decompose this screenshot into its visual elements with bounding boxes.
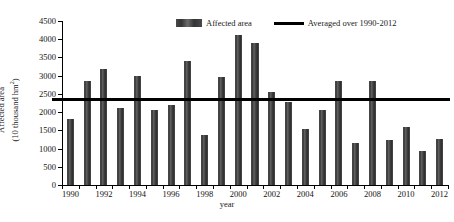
y-tick-label: 0 xyxy=(52,181,56,190)
x-tick-label: 1992 xyxy=(95,190,112,199)
x-tick xyxy=(213,185,214,189)
bar xyxy=(369,81,376,185)
y-tick xyxy=(58,94,62,95)
y-axis-title-line2: (10 thousand hm2) xyxy=(7,50,21,170)
x-tick xyxy=(448,185,449,189)
x-tick xyxy=(112,185,113,189)
bar xyxy=(67,119,74,185)
x-tick xyxy=(347,185,348,189)
x-axis-title: year xyxy=(0,199,454,209)
y-tick xyxy=(58,149,62,150)
x-tick xyxy=(414,185,415,189)
y-tick-label: 3500 xyxy=(39,53,56,62)
bar xyxy=(218,77,225,185)
x-tick-label: 1998 xyxy=(196,190,213,199)
y-tick xyxy=(58,39,62,40)
bar xyxy=(335,81,342,185)
chart-container: Affected area Averaged over 1990-2012 Af… xyxy=(0,0,454,222)
x-tick xyxy=(314,185,315,189)
x-tick-label: 2010 xyxy=(398,190,415,199)
y-axis-line xyxy=(62,21,63,185)
bar xyxy=(100,69,107,185)
x-tick-label: 2000 xyxy=(230,190,247,199)
bar xyxy=(84,81,91,185)
bar xyxy=(235,35,242,185)
y-tick xyxy=(58,130,62,131)
y-axis-title-line1: Affected area xyxy=(0,87,6,133)
bar xyxy=(319,110,326,185)
x-tick-label: 2008 xyxy=(364,190,381,199)
bar xyxy=(117,108,124,185)
x-tick xyxy=(179,185,180,189)
x-tick-label: 2002 xyxy=(263,190,280,199)
x-tick-label: 1996 xyxy=(163,190,180,199)
bar xyxy=(436,139,443,185)
x-tick xyxy=(146,185,147,189)
x-tick-label: 2006 xyxy=(330,190,347,199)
y-tick-label: 500 xyxy=(43,163,56,172)
average-reference-line xyxy=(52,98,450,100)
x-tick xyxy=(280,185,281,189)
x-tick xyxy=(79,185,80,189)
y-tick-label: 3000 xyxy=(39,71,56,80)
bar xyxy=(201,135,208,185)
bar xyxy=(168,105,175,185)
bar xyxy=(285,102,292,185)
bar xyxy=(151,110,158,185)
y-tick-label: 4500 xyxy=(39,17,56,26)
y-tick xyxy=(58,76,62,77)
y-tick xyxy=(58,57,62,58)
x-tick xyxy=(247,185,248,189)
y-tick xyxy=(58,167,62,168)
x-tick-label: 2004 xyxy=(297,190,314,199)
bar xyxy=(386,140,393,185)
y-tick-label: 2500 xyxy=(39,90,56,99)
bar xyxy=(184,61,191,185)
plot-area: 050010001500200025003000350040004500 199… xyxy=(62,21,448,185)
bar xyxy=(419,151,426,185)
x-tick-label: 1990 xyxy=(62,190,79,199)
bar xyxy=(403,127,410,185)
y-axis-title: Affected area (10 thousand hm2) xyxy=(0,50,21,170)
y-tick-label: 1000 xyxy=(39,144,56,153)
bar xyxy=(134,76,141,185)
bar xyxy=(302,129,309,185)
y-tick-label: 4000 xyxy=(39,35,56,44)
x-axis-line xyxy=(62,185,448,186)
x-tick-label: 1994 xyxy=(129,190,146,199)
y-tick xyxy=(58,112,62,113)
y-tick xyxy=(58,21,62,22)
bar xyxy=(352,143,359,185)
x-tick xyxy=(381,185,382,189)
y-tick-label: 2000 xyxy=(39,108,56,117)
y-tick-label: 1500 xyxy=(39,126,56,135)
x-tick-label: 2012 xyxy=(431,190,448,199)
bar xyxy=(268,92,275,185)
bar xyxy=(251,43,258,185)
